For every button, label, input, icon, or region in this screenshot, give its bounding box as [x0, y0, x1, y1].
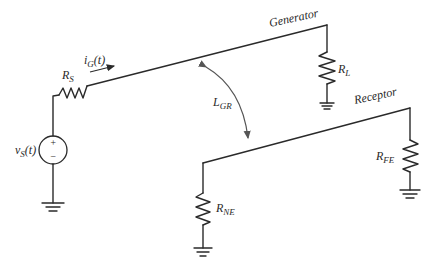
generator-label: Generator — [268, 6, 320, 30]
ground-rl-icon — [320, 103, 334, 109]
source-branch: + − — [39, 86, 87, 211]
rs-label: RS — [61, 68, 74, 84]
coupling-label: LGR — [212, 95, 232, 111]
ground-source-icon — [42, 203, 64, 211]
generator-line — [87, 25, 327, 86]
ground-rfe-icon — [400, 190, 420, 198]
rfe-label: RFE — [375, 149, 395, 165]
current-label: iG(t) — [84, 53, 105, 69]
rl-resistor — [319, 52, 335, 84]
rl-label: RL — [337, 62, 350, 78]
rne-label: RNE — [215, 201, 235, 217]
rs-resistor — [59, 86, 87, 98]
circuit-diagram: + − Generator Receptor — [0, 0, 437, 270]
source-minus: − — [50, 151, 57, 162]
source-label: vS(t) — [15, 143, 36, 159]
receptor-label: Receptor — [352, 84, 399, 107]
ground-rne-icon — [194, 248, 212, 256]
rfe-resistor — [403, 140, 418, 172]
rne-resistor — [196, 193, 210, 225]
source-plus: + — [50, 137, 57, 148]
